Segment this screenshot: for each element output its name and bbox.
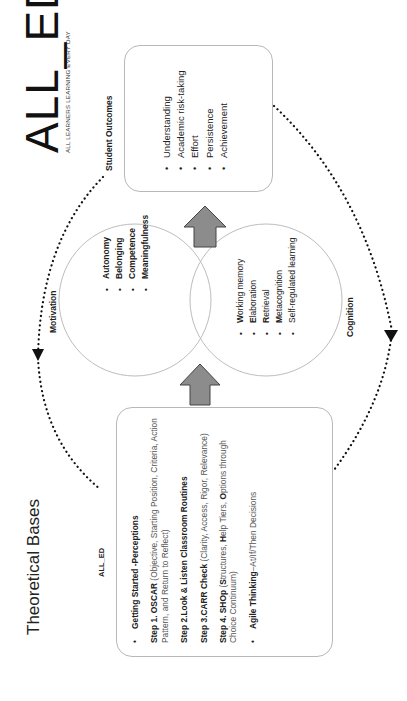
cognition-item: Working memory bbox=[234, 237, 247, 335]
bullet-icon: • bbox=[248, 629, 258, 643]
arrow-to-circles-icon bbox=[180, 364, 220, 405]
cognition-item: Self-regulated learning bbox=[286, 237, 299, 335]
outcome-item: Understanding bbox=[160, 70, 174, 170]
logo-tagline: ALL LEARNERS LEARNING EVERY DAY bbox=[64, 23, 71, 153]
motivation-label: Motivation bbox=[48, 291, 58, 334]
getting-started-item: • Getting Started -Perceptions bbox=[130, 413, 140, 643]
outcome-item: Effort bbox=[188, 70, 202, 170]
outcome-item: Academic risk-taking bbox=[174, 70, 188, 170]
motivation-arc-arrowhead-icon bbox=[32, 349, 44, 361]
outcome-item: Persistence bbox=[203, 70, 217, 170]
theoretical-bases-content: • Getting Started -Perceptions Step 1. O… bbox=[130, 413, 267, 643]
motivation-item: Autonomy bbox=[100, 215, 113, 291]
cognition-item: Retrieval bbox=[260, 237, 273, 335]
all-ed-logo: ALL_ED ALL LEARNERS LEARNING EVERY DAY bbox=[22, 23, 71, 153]
motivation-item: Competence bbox=[126, 215, 139, 291]
theoretical-bases-logo-label: ALL_ED bbox=[97, 548, 106, 577]
logo-wordmark: ALL_ED bbox=[22, 23, 62, 153]
step3-item: Step 3.CARR Check (Clarity, Access, Rigo… bbox=[199, 413, 209, 643]
step2-item: Step 2.Look & Listen Classroom Routines bbox=[179, 413, 189, 643]
step1-item: Step 1. OSCAR (Objective, Starting Posit… bbox=[149, 413, 170, 643]
motivation-item: Belonging bbox=[113, 215, 126, 291]
cognition-item: Metacognition bbox=[273, 237, 286, 335]
cognition-label: Cognition bbox=[345, 297, 355, 337]
theoretical-bases-title: Theoretical Bases bbox=[24, 499, 44, 635]
student-outcomes-title: Student Outcomes bbox=[104, 95, 114, 171]
arrow-to-outcomes-icon bbox=[184, 206, 226, 247]
cognition-item: Elaboration bbox=[247, 237, 260, 335]
step4-item: Step 4. SHOp (Structures, Help Tiers, Op… bbox=[218, 413, 239, 643]
bullet-icon: • bbox=[130, 629, 140, 643]
agile-thinking-item: • Agile Thinking–At/If/Then Decisions bbox=[248, 413, 258, 643]
motivation-cycle-arc bbox=[38, 177, 103, 489]
student-outcomes-list: Understanding Academic risk-taking Effor… bbox=[160, 70, 231, 170]
cognition-arc-arrowhead-icon bbox=[384, 330, 398, 342]
diagram-canvas: ALL_ED ALL LEARNERS LEARNING EVERY DAY S… bbox=[0, 0, 407, 701]
motivation-list: Autonomy Belonging Competence Meaningful… bbox=[100, 215, 152, 291]
outcome-item: Achievement bbox=[217, 70, 231, 170]
cognition-list: Working memory Elaboration Retrieval Met… bbox=[234, 237, 299, 335]
motivation-item: Meaningfulness bbox=[139, 215, 152, 291]
